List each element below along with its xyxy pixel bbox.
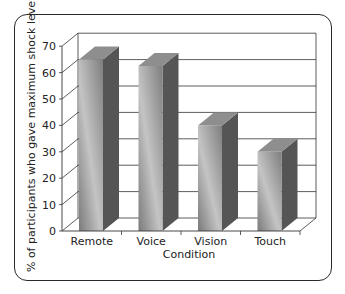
y-tick-label: 0 xyxy=(49,225,56,238)
x-tick-label-vision: Vision xyxy=(194,235,227,248)
bar-vision xyxy=(198,112,238,231)
x-tick-label-remote: Remote xyxy=(71,235,114,248)
y-tick-label: 20 xyxy=(42,172,56,185)
bar-chart: 010203040506070RemoteVoiceVisionTouch % … xyxy=(0,0,345,294)
x-axis-title: Condition xyxy=(163,248,216,261)
bar-touch xyxy=(258,139,298,231)
y-tick-label: 10 xyxy=(42,199,56,212)
bar-remote xyxy=(79,46,119,231)
bar-voice xyxy=(139,53,179,231)
y-tick-label: 70 xyxy=(42,40,56,53)
y-tick-label: 50 xyxy=(42,93,56,106)
y-tick-label: 30 xyxy=(42,146,56,159)
x-tick-label-voice: Voice xyxy=(137,235,167,248)
y-tick-label: 60 xyxy=(42,67,56,80)
x-tick-label-touch: Touch xyxy=(253,235,286,248)
y-tick-label: 40 xyxy=(42,119,56,132)
y-axis-title: % of participants who gave maximum shock… xyxy=(25,0,38,272)
